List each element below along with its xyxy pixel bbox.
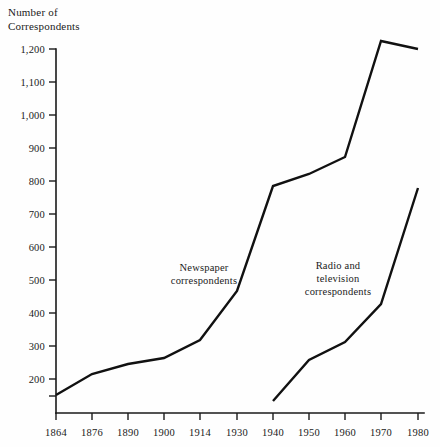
y-tick-label: 1,200 — [0, 44, 45, 55]
x-tick-label: 1940 — [262, 427, 284, 438]
y-tick-label: 600 — [0, 242, 45, 253]
y-tick-label: 800 — [0, 176, 45, 187]
series-line-newspaper-correspondents — [56, 41, 418, 395]
y-tick-marks — [49, 49, 56, 396]
y-tick-label: 1,000 — [0, 110, 45, 121]
y-tick-label: 300 — [0, 341, 45, 352]
x-tick-label: 1980 — [407, 427, 429, 438]
x-tick-label: 1864 — [45, 427, 67, 438]
y-tick-label: 900 — [0, 143, 45, 154]
x-tick-label: 1950 — [298, 427, 320, 438]
x-tick-label: 1876 — [81, 427, 103, 438]
x-tick-marks — [56, 413, 418, 420]
y-tick-label: 200 — [0, 374, 45, 385]
chart-plot-area — [0, 0, 440, 447]
y-tick-label: 500 — [0, 275, 45, 286]
x-tick-label: 1890 — [117, 427, 139, 438]
x-tick-label: 1970 — [370, 427, 392, 438]
y-tick-label: 400 — [0, 308, 45, 319]
chart-page: Number of Correspondents — [0, 0, 440, 447]
x-tick-label: 1900 — [153, 427, 175, 438]
x-tick-label: 1960 — [334, 427, 356, 438]
x-tick-label: 1930 — [226, 427, 248, 438]
y-tick-label: 1,100 — [0, 77, 45, 88]
series-annotation-radio-television-correspondents: Radio and television correspondents — [288, 259, 388, 298]
y-tick-label: 700 — [0, 209, 45, 220]
series-annotation-newspaper-correspondents: Newspaper correspondents — [160, 261, 248, 287]
x-tick-label: 1914 — [189, 427, 211, 438]
